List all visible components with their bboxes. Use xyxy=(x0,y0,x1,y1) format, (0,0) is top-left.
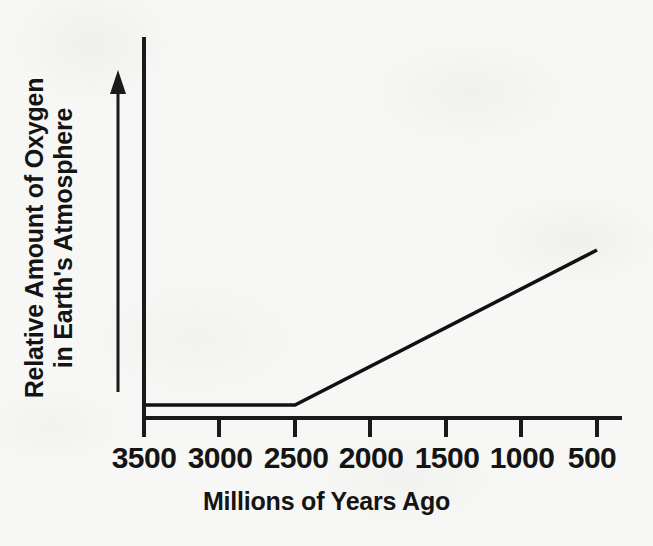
y-axis-title-line-2: in Earth's Atmosphere xyxy=(49,108,77,369)
y-axis-title: Relative Amount of Oxygen in Earth's Atm… xyxy=(0,28,96,448)
x-tick-label-1500: 1500 xyxy=(415,441,480,475)
x-axis-ticks xyxy=(144,418,597,437)
oxygen-series-line xyxy=(146,250,597,405)
x-tick-label-2000: 2000 xyxy=(339,441,404,475)
x-tick-label-500: 500 xyxy=(568,441,617,475)
x-tick-label-3500: 3500 xyxy=(112,441,177,475)
y-axis-title-line-1: Relative Amount of Oxygen xyxy=(20,78,48,399)
oxygen-atmosphere-chart: 3500 3000 2500 2000 1500 1000 500 Millio… xyxy=(0,0,653,546)
x-tick-label-3000: 3000 xyxy=(188,441,253,475)
x-axis-title: Millions of Years Ago xyxy=(0,487,653,516)
x-tick-label-2500: 2500 xyxy=(264,441,329,475)
y-axis-up-arrow-icon xyxy=(110,70,126,392)
x-tick-label-1000: 1000 xyxy=(490,441,555,475)
